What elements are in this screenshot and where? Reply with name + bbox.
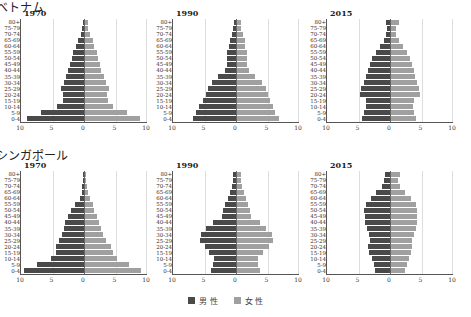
male-bar xyxy=(37,262,84,267)
male-bar xyxy=(227,50,236,55)
female-bar xyxy=(237,110,275,115)
legend-male-swatch xyxy=(188,297,195,304)
age-group-label: 45-49 xyxy=(4,213,20,219)
female-bar xyxy=(391,178,398,183)
age-group-label: 65-69 xyxy=(156,37,172,43)
age-group-label: 40-44 xyxy=(310,219,326,225)
male-bar xyxy=(380,44,390,49)
male-bar xyxy=(386,20,390,25)
age-group-label: 30-34 xyxy=(310,232,326,238)
age-group-label: 60-64 xyxy=(156,195,172,201)
gridline xyxy=(452,19,453,122)
female-bar xyxy=(85,56,98,61)
age-group-label: 5-9 xyxy=(317,262,326,268)
male-bar xyxy=(225,202,236,207)
female-bar xyxy=(85,208,94,213)
age-group-label: 60-64 xyxy=(4,43,20,49)
panel-year-title: 1990 xyxy=(176,160,198,170)
female-bar xyxy=(85,202,93,207)
male-bar xyxy=(228,196,236,201)
age-group-label: 40-44 xyxy=(156,219,172,225)
panel-year-title: 2015 xyxy=(330,160,352,170)
female-bar xyxy=(391,190,405,195)
age-group-label: 0-4 xyxy=(11,268,20,274)
x-tick-label: 10 xyxy=(168,276,176,283)
female-bar xyxy=(237,116,279,121)
female-bar xyxy=(85,256,117,261)
male-bar xyxy=(63,92,84,97)
age-group-label: 65-69 xyxy=(310,37,326,43)
male-bar xyxy=(230,190,236,195)
male-bar xyxy=(385,172,390,177)
female-bar xyxy=(237,86,266,91)
age-group-label: 10-14 xyxy=(156,256,172,262)
female-bar xyxy=(391,26,396,31)
male-bar xyxy=(213,220,236,225)
male-bar xyxy=(72,56,84,61)
female-bar xyxy=(237,196,246,201)
panel-year-title: 2015 xyxy=(330,8,352,18)
female-bar xyxy=(237,268,260,273)
female-bar xyxy=(237,238,273,243)
age-group-label: 30-34 xyxy=(4,80,20,86)
male-bar xyxy=(24,268,84,273)
x-tick-label: 5 xyxy=(50,276,54,283)
male-bar xyxy=(222,214,236,219)
age-group-label: 0-4 xyxy=(163,268,172,274)
male-bar xyxy=(81,32,84,37)
gridline xyxy=(359,171,360,274)
gridline xyxy=(53,19,54,122)
male-bar xyxy=(82,26,84,31)
plot-area xyxy=(172,19,299,123)
x-tick-label: 10 xyxy=(322,276,330,283)
male-bar xyxy=(208,86,236,91)
age-group-label: 15-19 xyxy=(4,98,20,104)
female-bar xyxy=(391,220,417,225)
female-bar xyxy=(237,74,255,79)
male-bar xyxy=(232,184,236,189)
age-group-label: 20-24 xyxy=(310,92,326,98)
age-group-label: 60-64 xyxy=(4,195,20,201)
female-bar xyxy=(85,190,88,195)
age-group-label: 75-79 xyxy=(310,177,326,183)
age-group-label: 25-29 xyxy=(310,238,326,244)
male-bar xyxy=(41,110,84,115)
female-bar xyxy=(237,44,245,49)
male-bar xyxy=(59,238,84,243)
age-group-label: 30-34 xyxy=(310,80,326,86)
male-bar xyxy=(206,226,236,231)
female-bar xyxy=(391,256,409,261)
age-group-label: 50-54 xyxy=(4,207,20,213)
male-bar xyxy=(362,116,390,121)
female-bar xyxy=(85,220,99,225)
age-group-label: 70-74 xyxy=(4,31,20,37)
male-bar xyxy=(193,116,236,121)
male-bar xyxy=(372,256,390,261)
male-bar xyxy=(71,208,84,213)
female-bar xyxy=(85,50,97,55)
male-bar xyxy=(83,172,84,177)
age-group-label: 50-54 xyxy=(310,55,326,61)
male-bar xyxy=(203,98,236,103)
age-group-label: 25-29 xyxy=(156,86,172,92)
male-bar xyxy=(371,196,390,201)
male-bar xyxy=(199,104,236,109)
male-bar xyxy=(374,262,390,267)
x-tick-label: 5 xyxy=(356,124,360,131)
male-bar xyxy=(232,32,236,37)
age-group-label: 35-39 xyxy=(310,226,326,232)
x-tick-label: 5 xyxy=(265,276,269,283)
x-tick-label: 5 xyxy=(50,124,54,131)
female-bar xyxy=(85,262,129,267)
pyramid-panel: 19700-45-910-1415-1920-2425-2930-3435-39… xyxy=(0,8,150,138)
male-bar xyxy=(63,98,84,103)
male-bar xyxy=(229,44,236,49)
female-bar xyxy=(237,172,241,177)
female-bar xyxy=(85,74,104,79)
male-bar xyxy=(212,80,236,85)
male-bar xyxy=(218,74,236,79)
x-tick-label: 10 xyxy=(16,276,24,283)
male-bar xyxy=(68,68,84,73)
male-bar xyxy=(61,86,84,91)
female-bar xyxy=(391,238,412,243)
